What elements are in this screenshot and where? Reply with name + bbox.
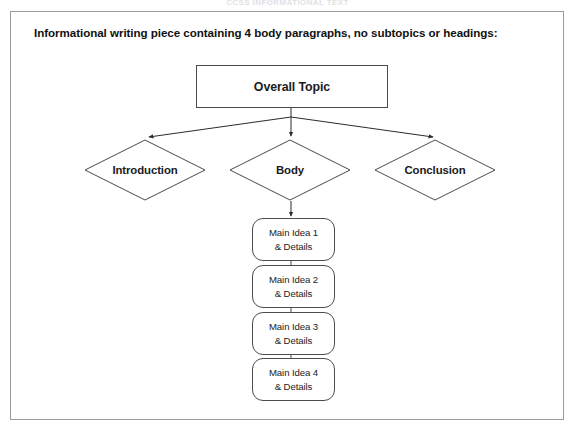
node-label-line1: Main Idea 2	[269, 274, 318, 285]
node-introduction: Introduction	[84, 139, 206, 201]
node-label: Conclusion	[374, 139, 496, 201]
node-label-line1: Main Idea 3	[269, 321, 318, 332]
node-label-line2: & Details	[275, 381, 313, 392]
diagram-page: CCSS INFORMATIONAL TEXT Informational wr…	[0, 0, 575, 432]
node-label: Introduction	[84, 139, 206, 201]
node-label: Overall Topic	[254, 80, 330, 94]
node-main-idea-1: Main Idea 1 & Details	[252, 218, 335, 261]
figure-caption: Informational writing piece containing 4…	[34, 26, 498, 39]
node-label-line1: Main Idea 1	[269, 227, 318, 238]
node-label-line2: & Details	[275, 335, 313, 346]
node-label-line1: Main Idea 4	[269, 367, 318, 378]
cut-off-header-text: CCSS INFORMATIONAL TEXT	[0, 0, 575, 5]
node-label-line2: & Details	[275, 241, 313, 252]
node-label: Body	[229, 139, 351, 201]
node-main-idea-3: Main Idea 3 & Details	[252, 312, 335, 355]
node-label-line2: & Details	[275, 288, 313, 299]
node-overall-topic: Overall Topic	[196, 65, 388, 108]
node-conclusion: Conclusion	[374, 139, 496, 201]
node-main-idea-2: Main Idea 2 & Details	[252, 265, 335, 308]
node-body: Body	[229, 139, 351, 201]
node-main-idea-4: Main Idea 4 & Details	[252, 358, 335, 401]
